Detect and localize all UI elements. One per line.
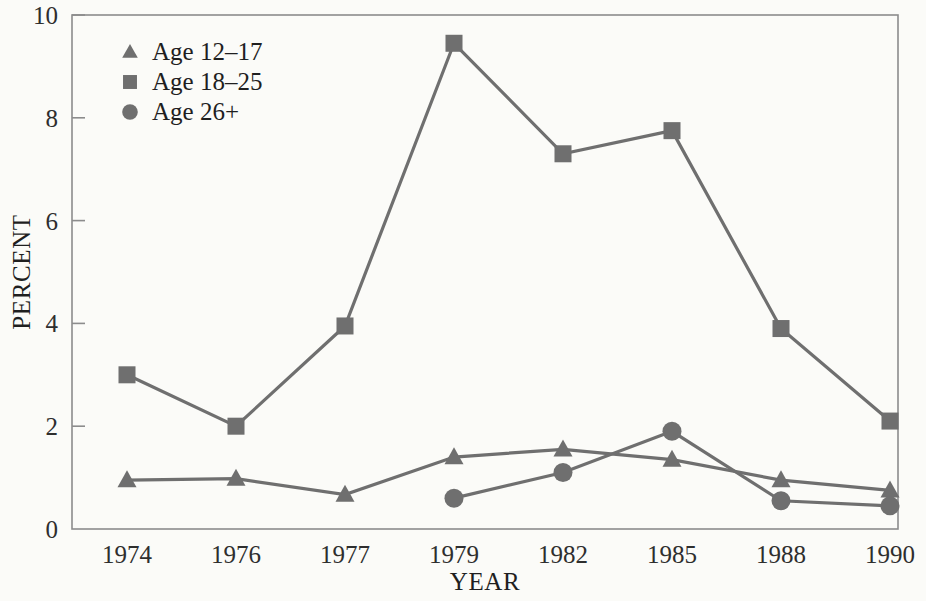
data-point-marker <box>664 122 681 139</box>
chart-figure: 0246810 19741976197719791982198519881990… <box>0 0 926 601</box>
y-tick-label-10: 10 <box>33 2 58 29</box>
data-point-marker <box>881 496 900 515</box>
data-point-marker <box>773 320 790 337</box>
y-tick-label-4: 4 <box>46 310 59 337</box>
x-axis-title: YEAR <box>450 568 520 595</box>
legend-label-3: Age 26+ <box>152 98 239 125</box>
legend-marker-circle <box>122 104 138 120</box>
data-point-marker <box>554 463 573 482</box>
data-point-marker <box>446 35 463 52</box>
x-tick-label-1985: 1985 <box>647 541 697 568</box>
x-tick-label-1990: 1990 <box>865 541 915 568</box>
y-tick-label-6: 6 <box>46 208 59 235</box>
legend-marker-square <box>123 75 137 89</box>
data-point-marker <box>119 366 136 383</box>
data-point-marker <box>445 489 464 508</box>
x-tick-label-1979: 1979 <box>429 541 479 568</box>
data-point-marker <box>337 317 354 334</box>
chart-background <box>0 0 926 601</box>
data-point-marker <box>228 418 245 435</box>
x-tick-label-1977: 1977 <box>320 541 370 568</box>
x-tick-label-1988: 1988 <box>756 541 806 568</box>
legend-label-2: Age 18–25 <box>152 68 262 95</box>
data-point-marker <box>882 413 899 430</box>
data-point-marker <box>663 422 682 441</box>
y-axis-title: PERCENT <box>8 214 35 329</box>
x-tick-label-1982: 1982 <box>538 541 588 568</box>
data-point-marker <box>555 145 572 162</box>
legend-label-1: Age 12–17 <box>152 38 262 65</box>
line-chart: 0246810 19741976197719791982198519881990… <box>0 0 926 601</box>
y-tick-label-0: 0 <box>46 516 59 543</box>
x-tick-label-1974: 1974 <box>102 541 153 568</box>
data-point-marker <box>772 491 791 510</box>
y-tick-label-2: 2 <box>46 413 59 440</box>
y-tick-label-8: 8 <box>46 105 59 132</box>
x-tick-label-1976: 1976 <box>211 541 261 568</box>
